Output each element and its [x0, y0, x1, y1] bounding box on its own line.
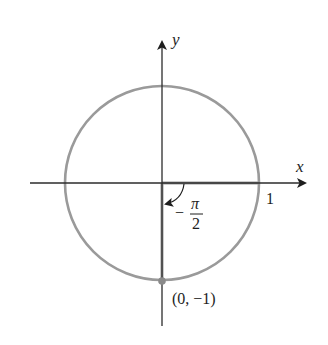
unit-circle-diagram: y x 1 − π 2 (0, −1) — [0, 0, 328, 345]
angle-sign: − — [175, 204, 184, 221]
angle-numerator: π — [191, 195, 200, 212]
y-axis-label: y — [170, 30, 180, 49]
angle-arc — [166, 184, 184, 204]
x-axis-label: x — [295, 157, 304, 176]
terminal-point — [158, 277, 166, 285]
angle-denominator: 2 — [192, 215, 200, 232]
label-one: 1 — [266, 190, 274, 207]
terminal-point-label: (0, −1) — [172, 290, 216, 308]
